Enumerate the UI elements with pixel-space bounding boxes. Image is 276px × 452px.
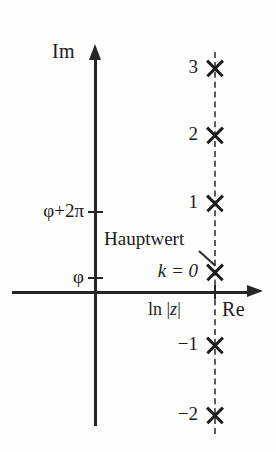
branch-marker-k-minus-2 xyxy=(203,403,227,427)
branch-marker-k-minus-1 xyxy=(203,333,227,357)
branch-label-k1: 1 xyxy=(150,191,198,213)
branch-label-k2: 2 xyxy=(150,123,198,145)
branch-marker-k3 xyxy=(203,56,227,80)
branch-label-k-minus-1: −1 xyxy=(146,333,198,355)
ln-modulus-annotation: ln |z| xyxy=(148,299,181,320)
right-arrow-icon xyxy=(247,285,263,297)
branch-label-k0: k = 0 xyxy=(118,260,198,282)
real-axis-label: Re xyxy=(222,298,245,321)
y-tick-phi-plus-2pi xyxy=(88,211,103,213)
branch-label-k3: 3 xyxy=(150,56,198,78)
hauptwert-annotation: Hauptwert xyxy=(104,228,184,250)
imaginary-axis xyxy=(94,58,97,426)
complex-plane-figure: Im Re φ+2π φ 3 2 1 k = 0 −1 −2 Hauptwert… xyxy=(0,0,276,452)
branch-label-k-minus-2: −2 xyxy=(146,403,198,425)
imaginary-axis-label: Im xyxy=(52,40,75,63)
branch-locus-dashed-line xyxy=(214,52,216,434)
y-tick-phi xyxy=(88,277,103,279)
ln-modulus-prefix: ln | xyxy=(148,299,170,319)
y-tick-label-phi: φ xyxy=(4,266,84,288)
branch-marker-k2 xyxy=(203,123,227,147)
up-arrow-icon xyxy=(89,44,101,60)
real-axis-tick-ln-modulus xyxy=(214,285,216,299)
ln-modulus-suffix: | xyxy=(177,299,181,319)
y-tick-label-phi-plus-2pi: φ+2π xyxy=(4,200,84,222)
branch-marker-k1 xyxy=(203,191,227,215)
real-axis xyxy=(12,291,252,294)
